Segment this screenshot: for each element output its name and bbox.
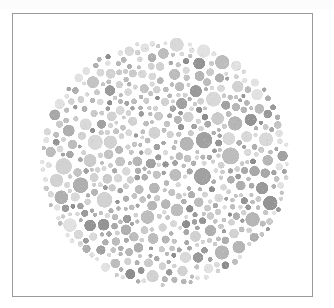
plate-canvas-wrapper: [13, 14, 312, 296]
scan-artifact-band: [0, 0, 334, 9]
plate-frame-border: [12, 13, 313, 297]
ishihara-plate-canvas: [13, 14, 312, 296]
plate-page: [0, 0, 334, 308]
